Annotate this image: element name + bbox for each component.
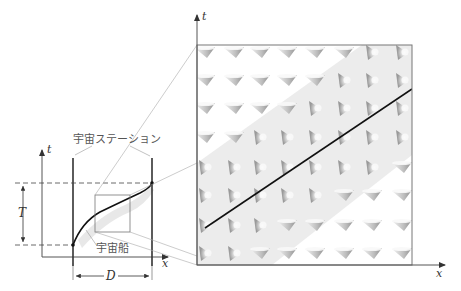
leader-station-right [130, 146, 150, 156]
left-t-axis-label: t [47, 144, 51, 155]
distance-label: D [106, 270, 116, 282]
spaceship-label: 宇宙船 [96, 243, 129, 254]
period-label: T [18, 207, 26, 219]
panel-t-axis-label: t [202, 11, 206, 22]
left-spacetime-diagram [15, 146, 168, 280]
event-start [71, 243, 75, 247]
panel-x-axis-label: x [436, 268, 442, 279]
leader-station-left [75, 146, 92, 155]
left-x-axis-label: x [162, 258, 168, 269]
zoom-panel [195, 15, 445, 265]
station-label: 宇宙ステーション [73, 134, 161, 145]
diagram-canvas [0, 0, 461, 291]
